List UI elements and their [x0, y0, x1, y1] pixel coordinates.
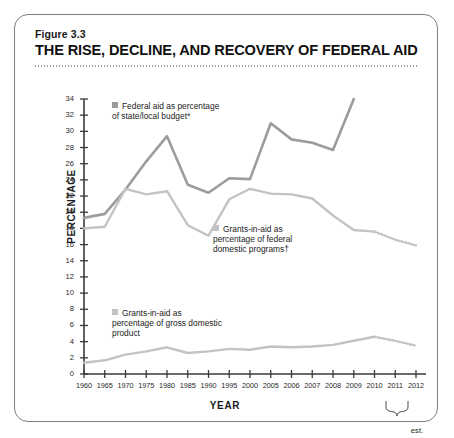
- y-tick-label: 32: [52, 110, 74, 119]
- y-tick-label: 2: [52, 353, 74, 362]
- legend-item-gross-domestic-product: Grants-in-aid as percentage of gross dom…: [112, 308, 222, 339]
- y-tick-label: 30: [52, 126, 74, 135]
- y-tick-label: 8: [52, 304, 74, 313]
- chart-plot-area: PERCENTAGE YEAR 024681012141618202224262…: [15, 15, 439, 423]
- figure-card: Figure 3.3 THE RISE, DECLINE, AND RECOVE…: [14, 14, 438, 422]
- legend-label-state-local-budget: Federal aid as percentage of state/local…: [112, 101, 219, 121]
- x-tick-label: 2012: [403, 381, 429, 390]
- y-tick-label: 16: [52, 240, 74, 249]
- y-tick-label: 14: [52, 256, 74, 265]
- legend-item-state-local-budget: Federal aid as percentage of state/local…: [112, 101, 222, 121]
- y-tick-label: 12: [52, 272, 74, 281]
- y-tick-label: 34: [52, 94, 74, 103]
- legend-swatch-state-local-budget: [112, 102, 118, 108]
- series-line: [84, 337, 375, 363]
- y-tick-label: 20: [52, 207, 74, 216]
- y-tick-label: 6: [52, 320, 74, 329]
- y-tick-label: 18: [52, 223, 74, 232]
- series-line: [375, 232, 417, 246]
- x-axis-label: YEAR: [135, 400, 315, 411]
- legend-swatch-gross-domestic-product: [112, 309, 118, 315]
- y-tick-label: 10: [52, 288, 74, 297]
- legend-item-federal-domestic-programs: Grants-in-aid as percentage of federal d…: [213, 224, 325, 255]
- y-tick-label: 26: [52, 159, 74, 168]
- y-tick-label: 0: [52, 369, 74, 378]
- y-tick-label: 28: [52, 143, 74, 152]
- y-tick-label: 24: [52, 175, 74, 184]
- legend-label-federal-domestic-programs: Grants-in-aid as percentage of federal d…: [213, 224, 292, 254]
- legend-swatch-federal-domestic-programs: [213, 225, 219, 231]
- y-tick-label: 4: [52, 337, 74, 346]
- legend-label-gross-domestic-product: Grants-in-aid as percentage of gross dom…: [112, 308, 222, 338]
- y-tick-label: 22: [52, 191, 74, 200]
- series-line: [375, 337, 417, 346]
- est-label: est.: [402, 426, 432, 435]
- line-chart-svg: [15, 15, 439, 423]
- est-bracket: [386, 401, 408, 416]
